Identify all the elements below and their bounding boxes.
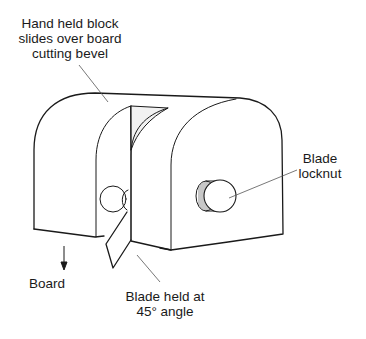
label-line: Blade held at: [110, 289, 220, 304]
label-line: 45° angle: [110, 304, 220, 319]
center-bottom-edge: [131, 241, 171, 250]
label-blade-angle: Blade held at 45° angle: [110, 289, 220, 319]
leader-blade: [137, 255, 160, 282]
label-hand-held-block: Hand held block slides over board cuttin…: [10, 16, 130, 61]
label-line: cutting bevel: [10, 46, 130, 61]
label-line: Blade: [290, 151, 350, 166]
leader-top: [79, 65, 108, 102]
left-block-outline: [34, 93, 283, 250]
left-block-front-face: [96, 106, 131, 237]
blade: [106, 212, 131, 268]
left-block-bottom-edge: [34, 229, 104, 237]
label-line: Hand held block: [10, 16, 130, 31]
leader-locknut: [229, 170, 297, 198]
board-arrow-icon: [61, 246, 67, 270]
label-line: locknut: [290, 166, 350, 181]
label-board: Board: [22, 276, 72, 291]
label-line: slides over board: [10, 31, 130, 46]
right-block-front-face: [171, 99, 236, 249]
blade-locknut: [196, 180, 236, 212]
blade-top-face: [131, 106, 168, 150]
label-blade-locknut: Blade locknut: [290, 151, 350, 181]
